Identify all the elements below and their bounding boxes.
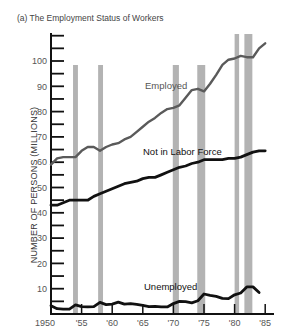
- y-tick-label: 60: [37, 157, 47, 167]
- x-tick-label: '80: [229, 318, 241, 328]
- x-tick-label: '85: [259, 318, 271, 328]
- recession-bar: [244, 34, 252, 314]
- series-label-employed: Employed: [145, 80, 187, 91]
- recession-bar: [173, 65, 179, 314]
- y-tick-label: 70: [37, 132, 47, 142]
- recession-bar: [235, 34, 240, 314]
- recession-bar: [197, 65, 205, 314]
- y-tick-label: 90: [37, 82, 47, 92]
- y-tick-label: 10: [37, 284, 47, 294]
- y-tick-label: 30: [37, 233, 47, 243]
- series-label-not-in-labor-force: Not in Labor Force: [143, 146, 222, 157]
- x-tick-label: 1950: [35, 318, 55, 328]
- line-not-in-labor-force: [51, 151, 265, 205]
- x-tick-label: '65: [137, 318, 149, 328]
- x-tick-label: '60: [106, 318, 118, 328]
- y-tick-label: 40: [37, 208, 47, 218]
- x-tick-label: '75: [198, 318, 210, 328]
- x-tick-label: '55: [76, 318, 88, 328]
- y-tick-label: 100: [32, 56, 47, 66]
- recession-bar: [98, 65, 103, 314]
- series-label-unemployed: Unemployed: [144, 281, 197, 292]
- y-tick-label: 50: [37, 183, 47, 193]
- y-tick-label: 80: [37, 107, 47, 117]
- x-tick-label: '70: [168, 318, 180, 328]
- y-tick-label: 20: [37, 259, 47, 269]
- employment-chart: 1020304050607080901001950'55'60'65'70'75…: [0, 0, 294, 328]
- recession-bar: [73, 65, 78, 314]
- series-labels: EmployedNot in Labor ForceUnemployed: [143, 80, 222, 292]
